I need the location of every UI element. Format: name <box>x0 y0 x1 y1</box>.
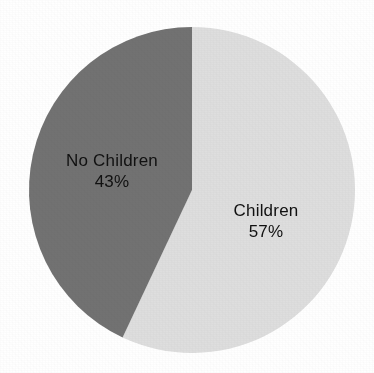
pie-label-no-children-value: 43% <box>66 171 158 192</box>
pie-label-children: Children 57% <box>234 200 299 242</box>
pie-label-no-children: No Children 43% <box>66 150 158 192</box>
pie-chart-svg <box>0 0 374 373</box>
pie-label-no-children-name: No Children <box>66 150 158 171</box>
pie-chart-figure: No Children 43% Children 57% <box>0 0 374 373</box>
pie-label-children-name: Children <box>234 200 299 221</box>
pie-label-children-value: 57% <box>234 221 299 242</box>
